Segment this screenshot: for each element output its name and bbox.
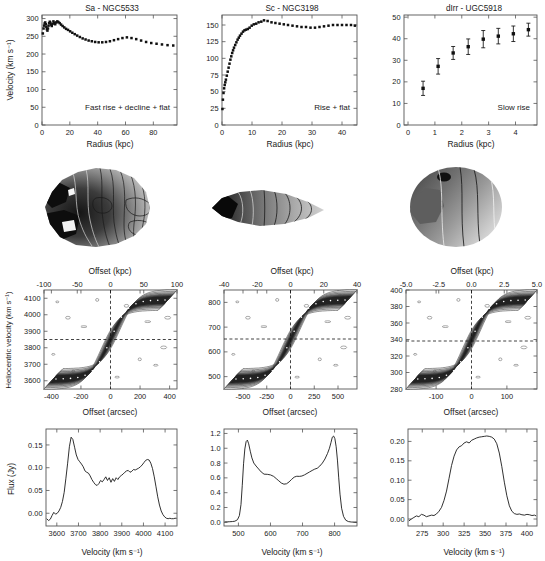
svg-text:3800: 3800 xyxy=(92,529,108,538)
rc1-tick-labels: 020406080050100150200250300 xyxy=(26,14,177,136)
svg-text:125: 125 xyxy=(206,37,218,46)
panel-pvd-col2: Offset (kpc) -500-2500250500500600700800… xyxy=(182,264,367,419)
svg-text:300: 300 xyxy=(437,529,449,538)
pvd2-top-xlabel: Offset (kpc) xyxy=(270,266,313,276)
svg-text:0: 0 xyxy=(40,128,44,137)
profile2-curve xyxy=(225,436,357,522)
svg-text:0.2: 0.2 xyxy=(210,503,220,512)
rc1-ylabel: Velocity (km s⁻¹) xyxy=(5,39,15,100)
svg-text:0: 0 xyxy=(214,121,218,130)
svg-text:0.10: 0.10 xyxy=(390,476,404,485)
panel-rotation-curve-col3: dIrr - UGC5918 0123401020304050 Slow ris… xyxy=(364,0,545,152)
svg-text:0.0: 0.0 xyxy=(210,518,220,527)
pvd1-top-xlabel: Offset (kpc) xyxy=(88,266,131,276)
svg-text:200: 200 xyxy=(134,392,146,401)
svg-text:800: 800 xyxy=(328,529,340,538)
svg-text:3800: 3800 xyxy=(24,343,40,352)
svg-text:700: 700 xyxy=(208,323,220,332)
svg-text:3600: 3600 xyxy=(49,529,65,538)
svg-text:20: 20 xyxy=(66,128,74,137)
rc2-tick-labels: 0102030400255075100125150 xyxy=(206,15,357,137)
svg-text:800: 800 xyxy=(208,298,220,307)
svg-text:1: 1 xyxy=(433,128,437,137)
svg-text:-20: -20 xyxy=(252,280,263,289)
vfield-map-3 xyxy=(408,166,506,250)
profile1-xlabel: Velocity (km s⁻¹) xyxy=(81,547,142,557)
panel-velocity-field-col1 xyxy=(0,152,185,264)
svg-text:30: 30 xyxy=(308,128,316,137)
svg-text:50: 50 xyxy=(30,103,38,112)
svg-text:-250: -250 xyxy=(259,392,274,401)
svg-text:-2.5: -2.5 xyxy=(432,280,445,289)
svg-text:75: 75 xyxy=(210,71,218,80)
svg-text:25: 25 xyxy=(210,104,218,113)
svg-text:100: 100 xyxy=(206,54,218,63)
rc3-data-points xyxy=(421,23,530,95)
svg-text:20: 20 xyxy=(278,128,286,137)
svg-text:0: 0 xyxy=(220,128,224,137)
rc3-xlabel: Radius (kpc) xyxy=(447,139,494,149)
pvd3-top-xlabel: Offset (kpc) xyxy=(450,266,493,276)
svg-text:600: 600 xyxy=(264,529,276,538)
svg-text:-100: -100 xyxy=(37,280,52,289)
panel-title-col3: dIrr - UGC5918 xyxy=(446,4,502,13)
svg-text:-400: -400 xyxy=(44,392,59,401)
rc1-data-points xyxy=(42,20,175,47)
svg-text:4100: 4100 xyxy=(157,529,173,538)
svg-text:320: 320 xyxy=(390,352,402,361)
svg-text:60: 60 xyxy=(121,128,129,137)
panel-pvd-col1: Offset (kpc) -400-2000200400360037003800… xyxy=(0,264,185,419)
svg-text:0.00: 0.00 xyxy=(390,515,404,524)
svg-text:30: 30 xyxy=(392,56,400,65)
panel-profile-col1: 3600370038003900400041000.000.050.100.15… xyxy=(0,419,185,561)
svg-text:0: 0 xyxy=(396,121,400,130)
svg-text:20: 20 xyxy=(320,280,328,289)
svg-text:4100: 4100 xyxy=(24,294,40,303)
vfield-map-2 xyxy=(207,182,332,232)
svg-text:100: 100 xyxy=(501,392,513,401)
svg-text:-100: -100 xyxy=(429,392,444,401)
panel-title-col1: Sa - NGC5533 xyxy=(85,4,139,13)
svg-text:80: 80 xyxy=(149,128,157,137)
rc2-data-points xyxy=(221,19,356,110)
rc1-xlabel: Radius (kpc) xyxy=(86,139,133,149)
svg-text:0: 0 xyxy=(34,121,38,130)
svg-text:0.10: 0.10 xyxy=(28,463,42,472)
svg-text:350: 350 xyxy=(479,529,491,538)
svg-text:3700: 3700 xyxy=(70,529,86,538)
pvd3-xlabel: Offset (arcsec) xyxy=(444,407,499,417)
svg-text:4: 4 xyxy=(513,128,517,137)
pvd1-xlabel: Offset (arcsec) xyxy=(83,407,138,417)
svg-text:0.15: 0.15 xyxy=(390,456,404,465)
svg-text:40: 40 xyxy=(353,280,361,289)
svg-text:0.20: 0.20 xyxy=(390,437,404,446)
svg-text:150: 150 xyxy=(26,67,38,76)
svg-text:2.5: 2.5 xyxy=(499,280,509,289)
svg-text:3900: 3900 xyxy=(114,529,130,538)
rc3-tick-labels: 0123401020304050 xyxy=(392,13,537,137)
vfield-map-1 xyxy=(40,162,160,254)
panel-profile-col3: 2753003253503754000.000.050.100.150.20 V… xyxy=(364,419,545,561)
svg-text:4000: 4000 xyxy=(135,529,151,538)
svg-text:40: 40 xyxy=(338,128,346,137)
panel-title-col2: Sc - NGC3198 xyxy=(265,4,319,13)
svg-text:3: 3 xyxy=(487,128,491,137)
svg-text:-5.0: -5.0 xyxy=(400,280,413,289)
svg-text:10: 10 xyxy=(248,128,256,137)
panel-velocity-field-col3 xyxy=(364,152,545,264)
svg-text:300: 300 xyxy=(390,368,402,377)
rc1-annotation: Fast rise + decline + flat xyxy=(85,103,171,112)
panel-pvd-col3: Offset (kpc) -10001002803003203403603804… xyxy=(364,264,545,419)
svg-text:250: 250 xyxy=(308,392,320,401)
profile1-curve xyxy=(47,437,177,520)
profile3-curve xyxy=(409,436,536,521)
svg-text:0.05: 0.05 xyxy=(390,495,404,504)
svg-text:0: 0 xyxy=(288,280,292,289)
svg-text:0.4: 0.4 xyxy=(210,488,220,497)
svg-text:325: 325 xyxy=(458,529,470,538)
svg-text:0: 0 xyxy=(288,392,292,401)
svg-text:50: 50 xyxy=(392,13,400,22)
svg-text:375: 375 xyxy=(500,529,512,538)
svg-text:50: 50 xyxy=(210,87,218,96)
svg-text:0: 0 xyxy=(108,280,112,289)
